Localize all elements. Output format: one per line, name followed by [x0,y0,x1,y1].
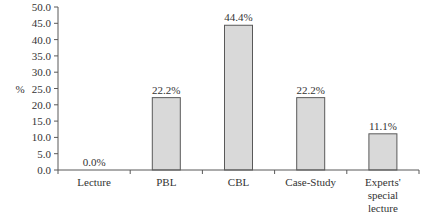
y-tick-label: 45.0 [32,17,52,29]
y-tick-label: 0.0 [37,164,51,176]
y-tick-label: 50.0 [32,1,52,13]
value-label: 22.2% [152,84,180,96]
bar-chart: % 0.05.010.015.020.025.030.035.040.045.0… [0,0,435,221]
y-tick-label: 5.0 [37,148,51,160]
y-tick-label: 40.0 [32,34,52,46]
category-label: PBL [156,176,176,188]
value-label: 0.0% [83,156,106,168]
y-axis: 0.05.010.015.020.025.030.035.040.045.050… [32,1,58,176]
bars: 0.0%22.2%44.4%22.2%11.1% [83,11,397,170]
bar [152,98,180,170]
category-label: Experts' [365,176,401,188]
category-label: special [368,189,399,201]
value-label: 11.1% [369,120,397,132]
bar [297,98,325,170]
category-label: CBL [228,176,250,188]
x-axis: LecturePBLCBLCase-StudyExperts'specialle… [58,170,419,214]
y-tick-label: 15.0 [32,115,52,127]
y-axis-label: % [15,83,24,95]
y-tick-label: 10.0 [32,131,52,143]
y-tick-label: 30.0 [32,66,52,78]
y-tick-label: 25.0 [32,83,52,95]
bar [225,25,253,170]
category-label: Lecture [77,176,111,188]
y-tick-label: 20.0 [32,99,52,111]
category-label: lecture [368,202,398,214]
y-tick-label: 35.0 [32,50,52,62]
bar [369,134,397,170]
category-label: Case-Study [285,176,336,188]
value-label: 44.4% [224,11,252,23]
value-label: 22.2% [296,84,324,96]
